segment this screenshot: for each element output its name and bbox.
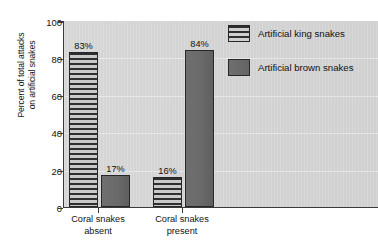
plot-area: 83% 17% 16% 84% [63, 21, 378, 208]
gridline-40 [64, 133, 378, 134]
y-axis-title-line-1: Percent of total attacks [16, 0, 27, 160]
x-tick-mark-coral-absent [98, 208, 99, 213]
legend-label-brown-snakes: Artificial brown snakes [258, 63, 353, 73]
bar-brown-snakes-present[interactable]: 84% [185, 50, 214, 207]
x-category-label-coral-present: Coral snakes present [127, 214, 237, 237]
x-category-label-coral-present-line-1: Coral snakes [127, 214, 237, 226]
bar-value-brown-snakes-present: 84% [190, 40, 208, 49]
bar-king-snakes-absent[interactable]: 83% [69, 52, 98, 207]
x-category-label-coral-present-line-2: present [127, 226, 237, 238]
bar-brown-snakes-absent[interactable]: 17% [101, 175, 130, 207]
x-tick-mark-coral-present [182, 208, 183, 213]
legend-swatch-solid-icon [228, 59, 250, 76]
legend-item-king-snakes[interactable]: Artificial king snakes [228, 25, 345, 42]
gridline-60 [64, 96, 378, 97]
bar-king-snakes-present[interactable]: 16% [153, 177, 182, 207]
bar-value-brown-snakes-absent: 17% [106, 165, 124, 174]
bar-chart-figure: Percent of total attacks on artificial s… [0, 0, 378, 250]
bar-value-king-snakes-present: 16% [158, 167, 176, 176]
legend-label-king-snakes: Artificial king snakes [258, 29, 345, 39]
legend-swatch-striped-icon [228, 25, 250, 42]
legend-item-brown-snakes[interactable]: Artificial brown snakes [228, 59, 353, 76]
bar-value-king-snakes-absent: 83% [74, 42, 92, 51]
